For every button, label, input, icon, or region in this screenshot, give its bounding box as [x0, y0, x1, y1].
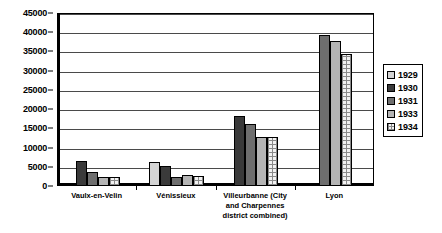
- x-tick-mark: [295, 186, 296, 190]
- y-tick-mark: [48, 13, 53, 14]
- y-tick-label: 5000: [28, 162, 47, 172]
- y-axis-labels: 4500040000350003000025000200001500010000…: [0, 13, 53, 186]
- y-tick-label: 35000: [23, 46, 47, 56]
- y-tick-mark: [48, 89, 53, 90]
- bar: [160, 166, 171, 185]
- x-tick-mark: [136, 186, 137, 190]
- bar-group: [296, 14, 375, 185]
- y-tick-label: 15000: [23, 123, 47, 133]
- x-axis-category-label-line: Lyon: [285, 191, 384, 201]
- legend-swatch-icon: [387, 84, 395, 92]
- legend-item[interactable]: 1933: [387, 107, 418, 120]
- y-tick-label: 25000: [23, 85, 47, 95]
- y-tick-label: 20000: [23, 104, 47, 114]
- bar: [171, 177, 182, 185]
- y-tick-mark: [48, 128, 53, 129]
- bar: [245, 124, 256, 186]
- y-tick-label: 40000: [23, 27, 47, 37]
- bar: [76, 161, 87, 185]
- y-tick-mark: [48, 186, 53, 187]
- legend-item[interactable]: 1929: [387, 68, 418, 81]
- bar: [341, 54, 352, 185]
- legend-item[interactable]: 1931: [387, 94, 418, 107]
- bar: [234, 116, 245, 185]
- legend-label: 1930: [398, 83, 418, 93]
- bars-layer: [58, 14, 373, 185]
- bar: [182, 175, 193, 185]
- bar-group: [137, 14, 216, 185]
- bar: [193, 176, 204, 185]
- x-tick-mark: [216, 186, 217, 190]
- y-tick-mark: [48, 51, 53, 52]
- x-axis-category-label-line: district combined): [206, 211, 305, 221]
- y-tick-label: 0: [42, 181, 47, 191]
- legend-swatch-icon: [387, 123, 395, 131]
- bar: [98, 177, 109, 185]
- bar: [256, 137, 267, 185]
- x-axis-labels: Vaulx-en-VelinVénissieuxVilleurbanne (Ci…: [57, 191, 374, 233]
- x-axis-category-label-line: and Charpennes: [206, 201, 305, 211]
- legend-item[interactable]: 1930: [387, 81, 418, 94]
- y-tick-mark: [48, 166, 53, 167]
- plot-area: [57, 13, 374, 186]
- legend-swatch-icon: [387, 110, 395, 118]
- y-tick-mark: [48, 70, 53, 71]
- bar-chart: 4500040000350003000025000200001500010000…: [0, 0, 442, 233]
- bar: [149, 162, 160, 185]
- legend-swatch-icon: [387, 97, 395, 105]
- y-tick-mark: [48, 32, 53, 33]
- legend-label: 1933: [398, 109, 418, 119]
- legend: 19291930193119331934: [383, 64, 423, 137]
- legend-item[interactable]: 1934: [387, 120, 418, 133]
- bar: [87, 172, 98, 185]
- legend-swatch-icon: [387, 71, 395, 79]
- bar: [109, 177, 120, 185]
- y-tick-mark: [48, 109, 53, 110]
- bar: [330, 41, 341, 185]
- bar-group: [217, 14, 296, 185]
- y-tick-label: 30000: [23, 66, 47, 76]
- bar-group: [58, 14, 137, 185]
- y-tick-label: 10000: [23, 143, 47, 153]
- bar: [319, 35, 330, 185]
- x-axis-category-label: Lyon: [285, 191, 384, 201]
- y-tick-label: 45000: [23, 8, 47, 18]
- legend-label: 1929: [398, 70, 418, 80]
- y-tick-mark: [48, 147, 53, 148]
- legend-label: 1931: [398, 96, 418, 106]
- legend-label: 1934: [398, 122, 418, 132]
- bar: [267, 137, 278, 185]
